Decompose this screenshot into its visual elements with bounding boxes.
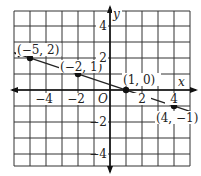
y-tick-label: −4	[89, 147, 107, 161]
x-tick-label: −2	[67, 92, 85, 106]
x-axis-label: x	[178, 75, 185, 89]
y-tick-label: −2	[89, 115, 107, 129]
y-axis-label: y	[112, 7, 120, 21]
data-point	[123, 87, 129, 93]
y-axis-arrow-down-icon	[107, 166, 113, 174]
y-tick-label: 2	[99, 51, 107, 65]
x-tick-label: −4	[35, 92, 53, 106]
point-label: (4, −1)	[156, 111, 198, 125]
grid-lines	[14, 11, 190, 166]
y-tick-label: 4	[99, 19, 107, 33]
origin-label: O	[98, 92, 108, 106]
point-label: (−5, 2)	[17, 43, 59, 57]
point-label: (1, 0)	[123, 73, 155, 87]
coordinate-plane: (−5, 2)(−2, 1)(1, 0)(4, −1)−4−22442−2−4O…	[0, 0, 201, 176]
x-axis-arrow-right-icon	[190, 87, 198, 93]
x-tick-label: 4	[170, 92, 178, 106]
x-tick-label: 2	[138, 92, 146, 106]
point-label: (−2, 1)	[60, 60, 102, 74]
